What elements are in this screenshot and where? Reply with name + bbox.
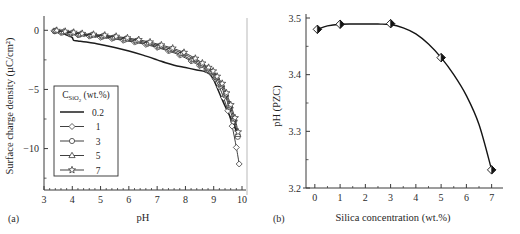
panel-b-x-tick-label: 7 [489, 192, 494, 203]
panel-a-svg: 3456789100−5−10 CSiO2 (wt.%)0.21357 pH S… [0, 0, 258, 234]
panel-b-y-tick-label: 3.5 [289, 13, 302, 24]
marker-fill-right [391, 19, 395, 27]
panel-b-x-tick-label: 3 [388, 192, 393, 203]
panel-b-x-tick-label: 0 [312, 192, 317, 203]
panel-b-ph-pzc: 012345673.23.33.43.5 Silica concentratio… [258, 0, 520, 234]
panel-b-y-tick-label: 3.4 [289, 69, 302, 80]
legend-entry-label: 7 [96, 166, 101, 176]
panel-a-x-tick-label: 4 [70, 194, 75, 205]
legend-entry-label: 0.2 [92, 108, 104, 118]
panel-a-x-tick-label: 10 [237, 194, 247, 205]
marker-fill-right [340, 20, 344, 28]
panel-b-marker [313, 25, 321, 33]
panel-b-x-tick-label: 2 [363, 192, 368, 203]
panel-a-x-tick-label: 6 [126, 194, 131, 205]
panel-a-x-tick-label: 7 [155, 194, 160, 205]
panel-b-x-tick-label: 6 [464, 192, 469, 203]
panel-b-trend-line [317, 24, 491, 170]
panel-a-surface-charge-density: 3456789100−5−10 CSiO2 (wt.%)0.21357 pH S… [0, 0, 258, 234]
panel-b-y-tick-label: 3.2 [289, 183, 302, 194]
panel-b-svg: 012345673.23.33.43.5 Silica concentratio… [258, 0, 520, 234]
panel-a-data-marker [233, 144, 239, 150]
panel-b-x-tick-label: 1 [338, 192, 343, 203]
panel-b-x-tick-label: 4 [413, 192, 418, 203]
panel-b-data-points [313, 19, 496, 174]
panel-b-y-tick-label: 3.3 [289, 126, 302, 137]
panel-b-marker [386, 19, 394, 27]
legend-entry-label: 5 [96, 151, 101, 161]
legend-sample-marker [69, 138, 74, 143]
panel-a-data-marker [236, 161, 242, 167]
marker-fill-right [317, 25, 321, 33]
panel-a-legend: CSiO2 (wt.%)0.21357 [54, 86, 118, 176]
panel-a-y-axis-label: Surface charge density (µC/cm²) [4, 37, 16, 175]
panel-b-marker [336, 20, 344, 28]
panel-a-y-tick-label: 0 [34, 25, 39, 36]
panel-a-x-tick-label: 5 [98, 194, 103, 205]
panel-b-x-tick-label: 5 [439, 192, 444, 203]
panel-a-x-tick-label: 9 [211, 194, 216, 205]
figure-container: 3456789100−5−10 CSiO2 (wt.%)0.21357 pH S… [0, 0, 520, 234]
panel-a-tag: (a) [8, 213, 19, 225]
panel-b-tag: (b) [273, 213, 285, 225]
panel-a-x-tick-label: 3 [42, 194, 47, 205]
legend-entry-label: 3 [96, 137, 101, 147]
panel-a-x-axis-label: pH [137, 212, 150, 223]
panel-b-fit-curve [317, 24, 491, 170]
panel-a-y-tick-label: −10 [23, 143, 39, 154]
panel-b-x-axis-label: Silica concentration (wt.%) [335, 212, 451, 224]
panel-a-y-tick-label: −5 [28, 84, 39, 95]
legend-entry-label: 1 [96, 122, 101, 132]
panel-b-axes: 012345673.23.33.43.5 [289, 13, 504, 204]
panel-a-x-tick-label: 8 [183, 194, 188, 205]
marker-fill-right [492, 166, 496, 174]
panel-b-marker [487, 166, 495, 174]
panel-b-y-axis-label: pH (PZC) [271, 85, 283, 127]
